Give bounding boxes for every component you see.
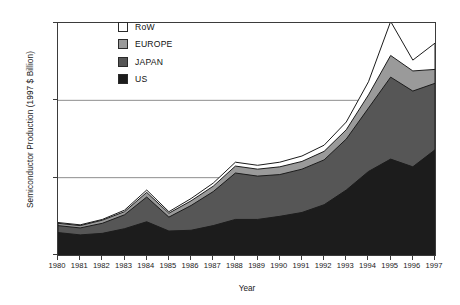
x-tick-mark-1987: [212, 256, 213, 260]
legend-label: RoW: [135, 22, 155, 32]
legend-item-japan: JAPAN: [118, 53, 173, 71]
x-tick-mark-1981: [79, 256, 80, 260]
x-tick-mark-1997: [434, 256, 435, 260]
legend-swatch-us: [118, 74, 128, 84]
x-tick-mark-1983: [124, 256, 125, 260]
x-tick-mark-1995: [390, 256, 391, 260]
x-axis-title: Year: [57, 284, 437, 293]
y-axis-title: Semiconductor Production (1997 $ Billion…: [26, 5, 35, 255]
x-tick-mark-1985: [168, 256, 169, 260]
x-tick-mark-1980: [57, 256, 58, 260]
x-tick-mark-1992: [323, 256, 324, 260]
legend-label: JAPAN: [135, 57, 163, 67]
chart-figure: Semiconductor Production (1997 $ Billion…: [0, 0, 460, 305]
legend-label: EUROPE: [135, 39, 173, 49]
legend-item-us: US: [118, 71, 173, 89]
x-tick-mark-1991: [301, 256, 302, 260]
plot-area: [57, 22, 436, 256]
x-tick-mark-1993: [345, 256, 346, 260]
legend-swatch-europe: [118, 39, 128, 49]
legend-swatch-japan: [118, 57, 128, 67]
x-tick-mark-1988: [234, 256, 235, 260]
legend-item-europe: EUROPE: [118, 36, 173, 54]
legend-item-row: RoW: [118, 18, 173, 36]
x-tick-mark-1994: [367, 256, 368, 260]
legend: RoWEUROPEJAPANUS: [118, 18, 173, 88]
stacked-area-series: [58, 23, 435, 255]
x-tick-mark-1996: [412, 256, 413, 260]
x-tick-mark-1989: [257, 256, 258, 260]
x-tick-mark-1990: [279, 256, 280, 260]
x-tick-mark-1984: [146, 256, 147, 260]
legend-swatch-row: [118, 22, 128, 32]
x-tick-label-1997: 1997: [421, 261, 447, 270]
x-tick-mark-1986: [190, 256, 191, 260]
x-tick-mark-1982: [101, 256, 102, 260]
legend-label: US: [135, 74, 147, 84]
